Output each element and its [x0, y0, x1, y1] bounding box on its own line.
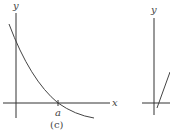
y-axis-label: y — [150, 4, 157, 15]
y-axis-label: y — [12, 0, 19, 11]
figure-c: y x a (c) — [3, 0, 118, 130]
figure-caption: (c) — [50, 119, 64, 130]
diagram-canvas: y x a (c) y — [0, 0, 170, 137]
decreasing-curve — [9, 24, 94, 118]
x-axis-label: x — [112, 97, 118, 108]
tick-label-a: a — [55, 107, 61, 118]
figure-d-partial: y — [142, 4, 170, 115]
